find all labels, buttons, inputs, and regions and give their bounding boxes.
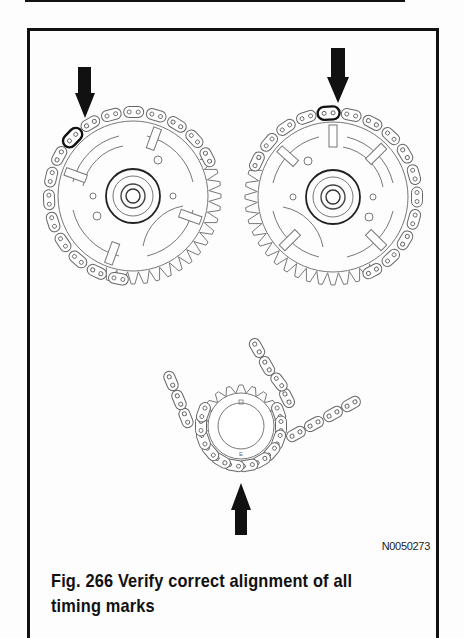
arrow-left-timing-mark bbox=[75, 67, 95, 118]
caption-line-1: Fig. 266 Verify correct alignment of all bbox=[51, 568, 361, 593]
arrow-crank-timing-mark bbox=[231, 483, 251, 535]
figure-caption: Fig. 266 Verify correct alignment of all… bbox=[51, 568, 361, 618]
right-camshaft-sprocket bbox=[245, 106, 423, 285]
left-camshaft-sprocket bbox=[43, 106, 221, 285]
caption-line-2: timing marks bbox=[51, 593, 361, 618]
svg-text:E: E bbox=[239, 451, 243, 457]
figure-id-code: N0050273 bbox=[382, 540, 430, 552]
arrow-right-timing-mark bbox=[327, 48, 349, 103]
crankshaft-sprocket: E bbox=[162, 337, 362, 473]
